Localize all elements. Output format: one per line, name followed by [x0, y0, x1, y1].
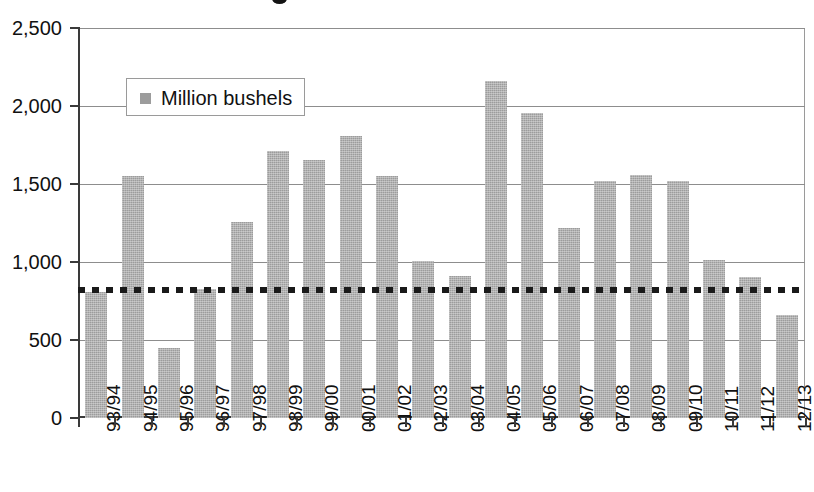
x-axis-tick: [696, 418, 698, 427]
y-axis-tick: [70, 261, 80, 263]
y-axis-tick: [70, 105, 80, 107]
y-axis-label: 0: [51, 408, 62, 428]
y-axis-label: 2,000: [12, 96, 62, 116]
gridline: [80, 262, 805, 263]
x-axis-tick: [478, 418, 480, 427]
gridline: [80, 340, 805, 341]
x-axis-tick: [623, 418, 625, 427]
bar: [485, 81, 507, 418]
cropped-title-glyph: [272, 0, 287, 4]
y-axis-tick: [70, 183, 80, 185]
y-axis-tick: [70, 27, 80, 29]
y-axis-label: 1,500: [12, 174, 62, 194]
x-axis-tick: [587, 418, 589, 427]
x-axis-label: 11/12: [758, 386, 777, 432]
x-axis-label: 02/03: [431, 384, 450, 432]
bar: [122, 176, 144, 418]
bar: [630, 175, 652, 418]
x-axis-tick: [223, 418, 225, 427]
legend: Million bushels: [126, 78, 305, 116]
bar: [376, 176, 398, 418]
bar: [267, 151, 289, 418]
x-axis-tick: [514, 418, 516, 427]
x-axis-tick: [442, 418, 444, 427]
bar: [667, 181, 689, 418]
x-axis-tick: [151, 418, 153, 427]
x-axis-tick: [732, 418, 734, 427]
bar: [521, 113, 543, 418]
y-axis-label: 2,500: [12, 18, 62, 38]
bar: [594, 181, 616, 418]
x-axis-tick: [551, 418, 553, 427]
y-axis-label: 1,000: [12, 252, 62, 272]
x-axis-tick: [260, 418, 262, 427]
reference-line: [78, 287, 805, 293]
x-axis-tick: [405, 418, 407, 427]
x-axis-tick: [78, 418, 80, 427]
legend-label: Million bushels: [161, 87, 292, 109]
x-axis-tick: [296, 418, 298, 427]
gridline: [80, 28, 805, 29]
x-axis-tick: [332, 418, 334, 427]
x-axis-tick: [187, 418, 189, 427]
gridline: [80, 184, 805, 185]
x-axis-tick: [369, 418, 371, 427]
bar-chart: 05001,0001,5002,0002,500 93/9494/9595/96…: [0, 0, 814, 492]
legend-square-marker-icon: [140, 93, 151, 104]
y-axis-tick: [70, 339, 80, 341]
bar: [340, 136, 362, 418]
x-axis-label: 05/06: [540, 384, 559, 432]
x-axis-tick: [114, 418, 116, 427]
y-axis-label: 500: [29, 330, 62, 350]
x-axis-tick: [660, 418, 662, 427]
x-axis-label: 08/09: [649, 384, 668, 432]
x-axis-tick: [769, 418, 771, 427]
x-axis-tick: [805, 418, 807, 427]
